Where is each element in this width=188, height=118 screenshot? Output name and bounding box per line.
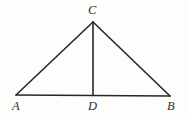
vertex-label-b: B	[167, 100, 175, 113]
vertex-label-d: D	[88, 100, 97, 113]
vertex-label-c: C	[88, 4, 96, 17]
vertex-label-a: A	[12, 100, 20, 113]
geometry-figure: C A D B	[0, 0, 188, 118]
left-side-segment-ac	[16, 22, 93, 95]
right-side-segment-cb	[93, 22, 170, 96]
